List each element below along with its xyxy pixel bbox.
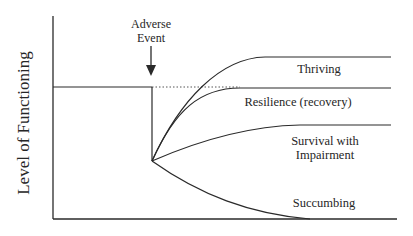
arrowhead-icon (146, 65, 156, 76)
y-axis-label: Level of Functioning (14, 51, 33, 195)
resilience-label: Resilience (recovery) (244, 95, 351, 109)
succumbing-label: Succumbing (293, 196, 356, 210)
succumbing-curve (152, 161, 310, 219)
adverse-event-label-line1: Adverse (131, 17, 171, 31)
survival-label-line2: Impairment (296, 148, 355, 162)
thriving-label: Thriving (297, 62, 341, 76)
resilience-diagram: Level of Functioning Adverse Event Thriv… (0, 0, 413, 236)
survival-label-line1: Survival with (291, 134, 359, 148)
adverse-event-label-line2: Event (137, 31, 166, 45)
